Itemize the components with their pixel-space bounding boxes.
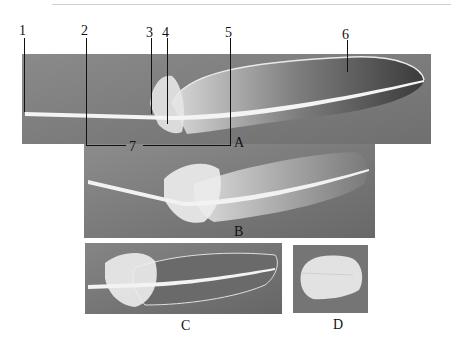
leader-line-3 — [151, 38, 152, 114]
feather-panel-d — [293, 245, 368, 313]
leader-line-4 — [167, 38, 168, 124]
panel-label-a: A — [234, 136, 244, 150]
panel-label-c: C — [181, 319, 190, 333]
feather-panel-c — [85, 243, 282, 314]
callout-4: 4 — [162, 26, 169, 40]
callout-6: 6 — [342, 28, 349, 42]
top-rule — [52, 4, 451, 5]
leader-line-2 — [86, 38, 87, 146]
bracket-7-left — [86, 145, 126, 146]
callout-7: 7 — [129, 140, 136, 154]
feather-panel-a — [22, 54, 431, 144]
callout-3: 3 — [146, 26, 153, 40]
panel-label-b: B — [234, 225, 243, 239]
leader-line-1 — [24, 38, 25, 112]
leader-line-5 — [230, 38, 231, 146]
panel-label-d: D — [333, 318, 343, 332]
feather-panel-b — [84, 144, 375, 238]
callout-2: 2 — [81, 24, 88, 38]
bracket-7-right — [143, 145, 231, 146]
leader-line-6 — [347, 40, 348, 72]
callout-5: 5 — [225, 26, 232, 40]
callout-1: 1 — [19, 24, 26, 38]
